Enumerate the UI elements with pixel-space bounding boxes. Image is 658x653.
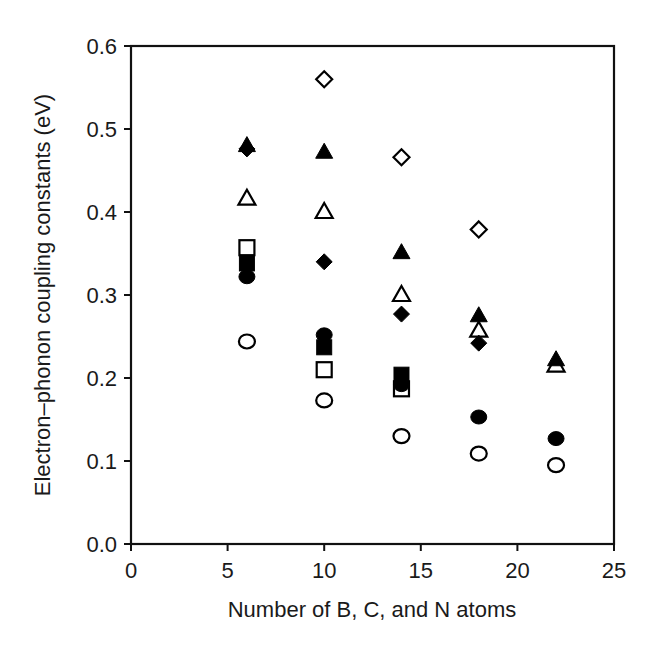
y-tick-label: 0.5 — [86, 117, 117, 142]
open-triangle-marker — [316, 203, 333, 218]
open-circle-marker — [393, 429, 409, 443]
filled-triangle-marker — [470, 307, 487, 322]
x-tick-label: 20 — [505, 558, 529, 583]
open-diamond-marker — [471, 221, 487, 237]
filled-diamond-marker — [393, 306, 409, 322]
open-circle-marker — [548, 458, 564, 472]
filled-circle-marker — [239, 270, 255, 284]
plot-frame — [131, 46, 614, 544]
filled-circle-marker — [471, 410, 487, 424]
y-tick-label: 0.4 — [86, 200, 117, 225]
filled-triangle-marker — [316, 143, 333, 158]
open-square-marker — [317, 362, 332, 377]
x-tick-label: 10 — [312, 558, 336, 583]
y-tick-label: 0.3 — [86, 283, 117, 308]
open-square-marker — [239, 240, 254, 255]
y-tick-label: 0.1 — [86, 449, 117, 474]
x-tick-label: 15 — [409, 558, 433, 583]
x-tick-label: 0 — [125, 558, 137, 583]
filled-square-marker — [394, 367, 409, 382]
x-axis-title: Number of B, C, and N atoms — [228, 597, 517, 622]
open-triangle-marker — [393, 286, 410, 301]
filled-square-marker — [317, 340, 332, 355]
data-markers — [238, 71, 564, 472]
open-circle-marker — [239, 334, 255, 348]
open-triangle-marker — [238, 190, 255, 205]
y-tick-label: 0.0 — [86, 532, 117, 557]
filled-triangle-marker — [548, 351, 565, 366]
axes: 05101520250.00.10.20.30.40.50.6 — [86, 34, 626, 583]
y-axis-title: Electron–phonon coupling constants (eV) — [30, 94, 55, 496]
open-diamond-marker — [393, 149, 409, 165]
open-circle-marker — [471, 447, 487, 461]
x-tick-label: 5 — [221, 558, 233, 583]
open-circle-marker — [316, 393, 332, 407]
filled-triangle-marker — [238, 137, 255, 152]
filled-diamond-marker — [316, 254, 332, 270]
filled-circle-marker — [548, 432, 564, 446]
filled-triangle-marker — [393, 244, 410, 259]
open-diamond-marker — [316, 71, 332, 87]
filled-square-marker — [239, 256, 254, 271]
scatter-chart: 05101520250.00.10.20.30.40.50.6 Number o… — [0, 0, 658, 653]
y-tick-label: 0.6 — [86, 34, 117, 59]
y-tick-label: 0.2 — [86, 366, 117, 391]
x-tick-label: 25 — [602, 558, 626, 583]
